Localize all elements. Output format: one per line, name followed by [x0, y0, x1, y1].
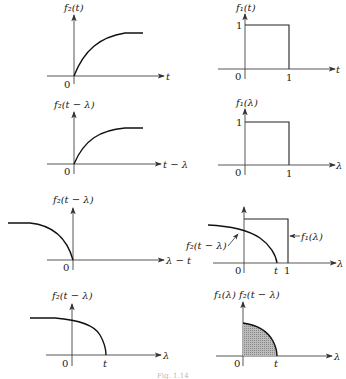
- y-label: f₂(t): [63, 2, 84, 13]
- f1-label: f₁(λ): [300, 231, 323, 242]
- origin-label: 0: [64, 79, 70, 90]
- y-label: f₂(t − λ): [53, 99, 95, 110]
- x-label: λ: [333, 351, 340, 362]
- panel-f2-reflected: f₂(t − λ) 0 λ − t: [8, 194, 192, 273]
- y-label: f₂(t − λ): [51, 290, 93, 301]
- origin-label: 0: [235, 71, 241, 82]
- x-label: λ: [335, 160, 342, 171]
- figure-caption: Fig. 1.14: [157, 372, 189, 379]
- x-tick-1: 1: [284, 265, 290, 276]
- exponential-curve: [74, 128, 143, 164]
- y-label: f₁(λ) f₂(t − λ): [213, 289, 280, 300]
- shifted-curve: [30, 318, 106, 355]
- origin-label: 0: [235, 167, 241, 178]
- panel-f2-shifted: f₂(t − λ) 0 t λ: [30, 290, 169, 369]
- exponential-curve: [74, 33, 143, 76]
- panel-f1-t: f₁(t) 1 0 1 t: [218, 2, 341, 83]
- x-label: t: [336, 64, 341, 75]
- reflected-curve: [8, 223, 73, 260]
- x-label: λ: [162, 350, 169, 361]
- y-label: f₁(λ): [235, 97, 258, 108]
- origin-label: 0: [64, 166, 70, 177]
- unit-pulse: [245, 25, 289, 69]
- origin-label: 0: [62, 358, 68, 369]
- unit-pulse: [245, 122, 289, 165]
- x-label: t: [166, 71, 171, 82]
- y-tick-1: 1: [236, 20, 242, 31]
- x-label: λ: [336, 258, 343, 269]
- panel-product: f₁(λ) f₂(t − λ) 0 t λ: [213, 289, 340, 369]
- x-label: λ − t: [165, 255, 192, 266]
- unit-pulse: [244, 219, 288, 263]
- pointer-arrow: [228, 234, 238, 246]
- y-label: f₂(t − λ): [52, 194, 94, 205]
- x-label: t − λ: [163, 159, 188, 170]
- x-tick-t: t: [274, 358, 279, 369]
- panel-f2-t: f₂(t) 0 t: [47, 2, 171, 90]
- panel-f2-t-minus-lambda: f₂(t − λ) 0 t − λ: [47, 99, 188, 177]
- origin-label: 0: [235, 265, 241, 276]
- origin-label: 0: [63, 262, 69, 273]
- convolution-figure: f₂(t) 0 t f₁(t) 1 0 1 t f₂(t − λ) 0 t − …: [0, 0, 346, 379]
- x-tick-1: 1: [286, 168, 292, 179]
- panel-overlay: f₂(t − λ) f₁(λ) 0 t 1 λ: [185, 207, 343, 276]
- panel-f1-lambda: f₁(λ) 1 0 1 λ: [218, 97, 342, 179]
- x-tick-t: t: [103, 358, 108, 369]
- f2-label: f₂(t − λ): [185, 240, 227, 251]
- y-tick-1: 1: [236, 117, 242, 128]
- x-tick-t: t: [274, 265, 279, 276]
- y-label: f₁(t): [235, 2, 256, 13]
- x-tick-1: 1: [286, 72, 292, 83]
- origin-label: 0: [234, 358, 240, 369]
